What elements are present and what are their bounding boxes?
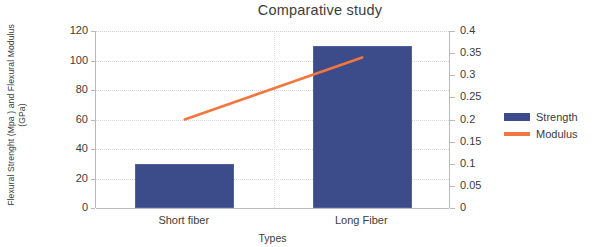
y-tick-mark-right <box>450 97 455 98</box>
category-divider <box>274 31 275 208</box>
y-axis-label: Flexural Strenght (Mpa ) and Flexural Mo… <box>0 0 34 230</box>
y-tick-label-left: 120 <box>50 25 88 36</box>
y-tick-mark-right <box>450 208 455 209</box>
y-tick-mark-right <box>450 120 455 121</box>
y-tick-label-left: 20 <box>50 173 88 184</box>
y-tick-label-left: 0 <box>50 202 88 213</box>
gridline <box>96 31 449 32</box>
legend-label: Strength <box>536 111 578 123</box>
legend-line-swatch-icon <box>504 132 530 136</box>
y-tick-label-left: 100 <box>50 55 88 66</box>
y-tick-label-right: 0.25 <box>460 91 481 102</box>
legend-item[interactable]: Strength <box>504 108 596 125</box>
chart-title: Comparative study <box>205 2 435 18</box>
chart-figure: Comparative study Flexural Strenght (Mpa… <box>0 0 596 247</box>
y-tick-label-right: 0.15 <box>460 136 481 147</box>
y-tick-label-right: 0 <box>460 202 466 213</box>
y-tick-mark-right <box>450 142 455 143</box>
gridline <box>96 208 449 209</box>
plot-area <box>95 31 450 208</box>
bar <box>313 46 412 208</box>
y-tick-label-left: 80 <box>50 84 88 95</box>
y-tick-label-right: 0.4 <box>460 25 475 36</box>
chart-legend: StrengthModulus <box>504 108 596 142</box>
y-tick-label-left: 60 <box>50 114 88 125</box>
y-tick-mark-right <box>450 53 455 54</box>
y-tick-label-right: 0.3 <box>460 69 475 80</box>
y-tick-label-right: 0.1 <box>460 158 475 169</box>
y-tick-mark-right <box>450 75 455 76</box>
y-tick-mark-right <box>450 164 455 165</box>
y-tick-mark-right <box>450 31 455 32</box>
x-axis-category-label: Short fiber <box>124 214 244 226</box>
y-tick-label-right: 0.2 <box>460 114 475 125</box>
bar <box>135 164 234 208</box>
y-tick-label-left: 40 <box>50 143 88 154</box>
legend-bar-swatch-icon <box>504 113 530 121</box>
y-axis-label-line2: (GPa) <box>17 24 28 206</box>
y-tick-mark-right <box>450 186 455 187</box>
x-axis-category-label: Long Fiber <box>301 214 421 226</box>
legend-label: Modulus <box>536 128 578 140</box>
x-axis-label: Types <box>95 232 450 244</box>
y-tick-mark-left <box>91 208 95 209</box>
y-tick-label-right: 0.05 <box>460 180 481 191</box>
y-tick-label-right: 0.35 <box>460 47 481 58</box>
y-axis-label-line1: Flexural Strenght (Mpa ) and Flexural Mo… <box>6 24 16 206</box>
legend-item[interactable]: Modulus <box>504 125 596 142</box>
